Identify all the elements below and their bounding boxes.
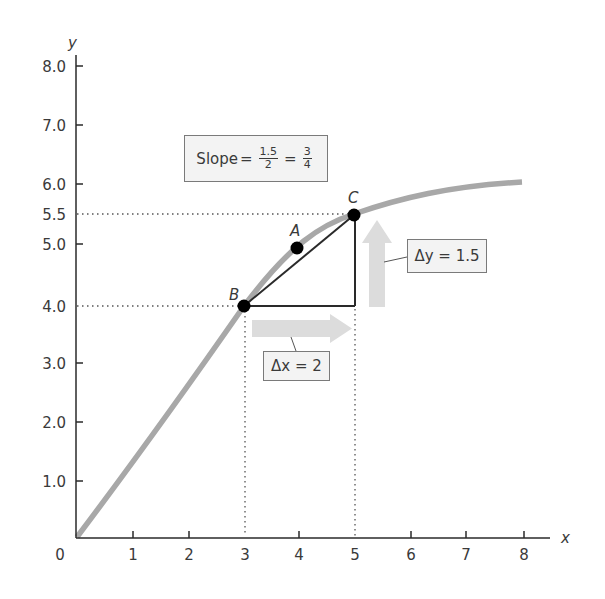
x-tick-2: 2 — [184, 546, 194, 564]
x-tick-5: 5 — [350, 546, 360, 564]
point-b — [238, 300, 251, 313]
y-tick-3: 3.0 — [42, 355, 66, 373]
point-c-label: C — [348, 189, 359, 207]
origin-label: 0 — [55, 546, 65, 564]
y-tick-8: 8.0 — [42, 58, 66, 76]
x-tick-6: 6 — [406, 546, 416, 564]
delta-y-arrow-icon — [362, 220, 392, 307]
delta-x-arrow-icon — [252, 314, 352, 343]
x-tick-1: 1 — [128, 546, 138, 564]
slope-annotation-box: Slope = 1.5 2 = 3 4 — [184, 135, 328, 182]
slope-fraction-1-den: 2 — [265, 159, 272, 171]
delta-x-label: Δx = 2 — [271, 357, 322, 375]
chart-canvas: 8.0 7.0 6.0 5.5 5.0 4.0 3.0 2.0 1.0 0 1 … — [0, 0, 605, 599]
point-a — [291, 242, 304, 255]
x-tick-3: 3 — [240, 546, 250, 564]
slope-prefix: Slope — [196, 150, 238, 168]
y-tick-5: 5.0 — [42, 236, 66, 254]
y-tick-5-5: 5.5 — [42, 206, 66, 224]
delta-y-label: Δy = 1.5 — [414, 247, 479, 265]
slope-equals-1: = — [240, 150, 253, 168]
slope-fraction-2: 3 4 — [303, 146, 312, 171]
point-a-label: A — [289, 222, 300, 240]
delta-x-connector — [291, 337, 296, 351]
y-tick-6: 6.0 — [42, 176, 66, 194]
delta-y-connector — [384, 257, 407, 262]
delta-y-annotation-box: Δy = 1.5 — [407, 239, 487, 273]
y-axis-label: y — [67, 34, 78, 52]
point-b-label: B — [229, 286, 239, 304]
x-tick-7: 7 — [461, 546, 471, 564]
y-tick-1: 1.0 — [42, 473, 66, 491]
x-tick-4: 4 — [294, 546, 304, 564]
point-c — [348, 209, 361, 222]
x-axis-label: x — [560, 529, 570, 547]
y-tick-7: 7.0 — [42, 117, 66, 135]
slope-fraction-2-den: 4 — [304, 159, 311, 171]
x-tick-8: 8 — [519, 546, 529, 564]
delta-x-annotation-box: Δx = 2 — [263, 351, 330, 381]
y-tick-4: 4.0 — [42, 298, 66, 316]
slope-equals-2: = — [284, 150, 297, 168]
y-tick-2: 2.0 — [42, 414, 66, 432]
slope-fraction-1: 1.5 2 — [259, 146, 279, 171]
